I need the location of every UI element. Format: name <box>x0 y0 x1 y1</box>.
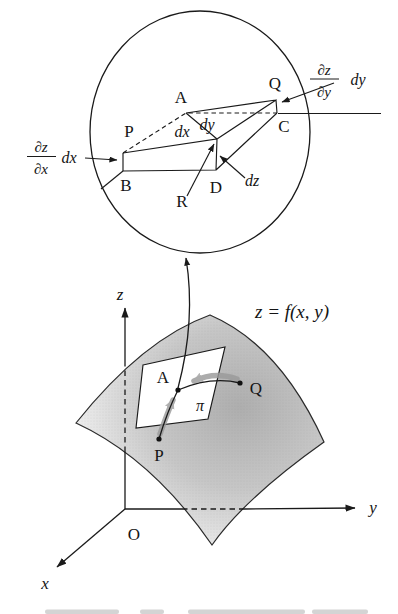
vertex-label-a: A <box>175 88 188 107</box>
plot-3d: z y x O z = f(x, y) A Q P π <box>40 258 377 593</box>
y-axis-label: y <box>367 498 377 517</box>
point-a-dot <box>175 387 180 392</box>
point-p-dot <box>156 436 161 441</box>
vertex-label-c: C <box>278 117 289 136</box>
point-q-label: Q <box>250 379 262 398</box>
x-axis-label: x <box>40 574 49 593</box>
partial-x-multiplier: dx <box>61 149 76 166</box>
y-axis-arrow <box>244 508 355 509</box>
partial-y-denominator: ∂y <box>317 84 331 100</box>
vertex-label-r: R <box>176 192 188 211</box>
partial-x-denominator: ∂x <box>34 161 48 177</box>
partial-x-numerator: ∂z <box>34 139 47 155</box>
z-axis-label: z <box>116 285 124 304</box>
partial-x-label: ∂z ∂x dx <box>27 139 77 177</box>
edge-label-dx: dx <box>174 123 189 140</box>
caption-cutoff-fragments <box>45 610 368 614</box>
point-q-dot <box>237 380 242 385</box>
surface-equation: z = f(x, y) <box>254 301 329 323</box>
vertex-label-q: Q <box>269 74 281 93</box>
vertex-label-d: D <box>210 178 222 197</box>
surface-patch-texture <box>76 315 324 545</box>
point-p-label: P <box>154 446 163 465</box>
partial-y-label: ∂z ∂y dy <box>310 62 366 100</box>
partial-y-multiplier: dy <box>350 71 366 89</box>
edge-label-dy: dy <box>199 116 215 134</box>
figure-canvas: z y x O z = f(x, y) A Q P π A Q P C B D … <box>0 0 398 614</box>
partial-y-numerator: ∂z <box>317 62 330 78</box>
origin-label: O <box>128 525 140 544</box>
figure-total-differential: z y x O z = f(x, y) A Q P π A Q P C B D … <box>0 0 398 614</box>
x-axis-arrow <box>57 509 125 567</box>
magnifier-view: A Q P C B D R dx dy dz ∂z ∂x dx ∂z ∂y dy <box>27 11 381 253</box>
point-a-label: A <box>157 368 170 387</box>
edge-label-dz: dz <box>245 172 260 189</box>
vertex-label-b: B <box>120 176 131 195</box>
tangent-plane-label: π <box>196 397 205 414</box>
vertex-label-p: P <box>124 122 133 141</box>
